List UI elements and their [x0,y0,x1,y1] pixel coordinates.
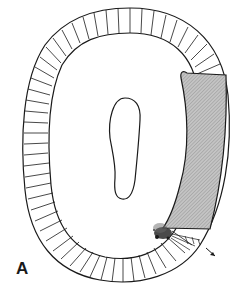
diagram-figure [0,0,249,302]
panel-label: A [16,259,28,279]
direction-arrow [206,248,215,256]
